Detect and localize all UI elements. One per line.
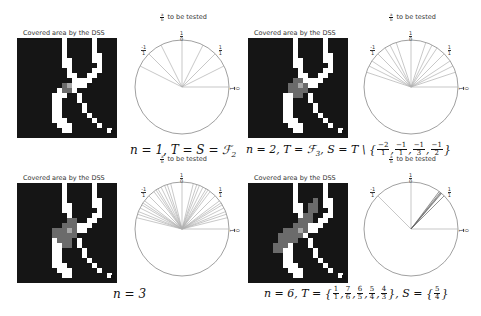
panel-caption: n = 6, T = {11,76,65,54,43}, S = {54} — [264, 286, 448, 301]
direction-ray — [140, 66, 182, 87]
direction-ray — [182, 54, 215, 87]
circle-title: ab to be tested — [159, 155, 207, 164]
tick-denominator: 0 — [409, 36, 412, 42]
caption-text: , — [408, 143, 412, 156]
goal-marker — [342, 130, 346, 134]
tick-label-top-left: -11 — [370, 45, 375, 56]
frac-denominator: 4 — [369, 294, 375, 301]
direction-ray — [411, 61, 450, 87]
caption-text: , S = T \ { — [320, 143, 376, 156]
direction-ray — [182, 45, 203, 87]
frac-denominator: b — [389, 18, 393, 22]
caption-subscript: 2 — [231, 150, 236, 159]
direction-circle — [133, 38, 231, 136]
grid-title: Covered area by the DSS — [23, 29, 105, 37]
tick-denominator: 1 — [371, 192, 374, 198]
title-fraction: ab — [160, 155, 164, 164]
direction-circle — [133, 180, 231, 278]
direction-ray — [161, 45, 182, 87]
caption-fraction: 54 — [434, 286, 440, 301]
tick-label-top-left: -11 — [141, 187, 146, 198]
title-fraction: ab — [389, 155, 393, 164]
grid-title: Covered area by the DSS — [254, 29, 336, 37]
direction-ray — [372, 61, 411, 87]
circle-title-text: to be tested — [165, 155, 206, 163]
direction-ray — [182, 66, 224, 87]
frac-denominator: b — [160, 160, 164, 164]
tick-denominator: 1 — [448, 50, 451, 56]
frac-denominator: b — [389, 160, 393, 164]
occupancy-grid — [17, 183, 117, 283]
goal-marker — [111, 275, 115, 279]
occupancy-grid — [17, 38, 117, 138]
circle-title: ab to be tested — [388, 13, 436, 22]
circle-title-text: to be tested — [394, 13, 435, 21]
tick-label-top-right: 11 — [448, 187, 451, 198]
tick-label-top-right: 11 — [448, 45, 451, 56]
tick-label-right: 01 — [458, 229, 469, 232]
caption-text: n = 2, T = ℱ — [246, 143, 316, 156]
caption-fraction: 11 — [333, 286, 339, 301]
panel-caption: n = 3 — [113, 287, 146, 301]
frac-denominator: 3 — [381, 294, 387, 301]
tick-denominator: 1 — [142, 192, 145, 198]
tick-denominator: 1 — [458, 229, 464, 232]
caption-text: n = 6, T = { — [264, 287, 332, 300]
caption-text: } — [444, 143, 451, 156]
tick-label-top-right: 11 — [219, 45, 222, 56]
tick-denominator: 1 — [458, 87, 464, 90]
direction-ray — [411, 48, 437, 87]
caption-text: , — [426, 143, 430, 156]
tick-denominator: 1 — [371, 50, 374, 56]
caption-fraction: 54 — [369, 286, 375, 301]
occupancy-grid — [248, 183, 348, 283]
tick-label-top: 10 — [409, 31, 412, 42]
tick-label-right: 01 — [229, 229, 240, 232]
direction-circle — [362, 180, 460, 278]
frac-denominator: 5 — [357, 294, 363, 301]
direction-circle — [362, 38, 460, 136]
direction-ray — [411, 54, 444, 87]
tick-label-top: 10 — [180, 173, 183, 184]
tick-denominator: 1 — [229, 87, 235, 90]
caption-text: , — [352, 287, 356, 300]
tick-denominator: 0 — [409, 178, 412, 184]
tick-denominator: 1 — [448, 192, 451, 198]
title-fraction: ab — [389, 13, 393, 22]
tick-denominator: 0 — [180, 36, 183, 42]
goal-marker — [342, 275, 346, 279]
circle-title: ab to be tested — [159, 13, 207, 22]
tick-label-top-left: -11 — [141, 45, 146, 56]
circle-title-text: to be tested — [394, 155, 435, 163]
tick-label-right: 01 — [458, 87, 469, 90]
caption-fraction: 76 — [345, 286, 351, 301]
caption-text: , — [364, 287, 368, 300]
caption-text: } — [441, 287, 448, 300]
grid-title: Covered area by the DSS — [23, 174, 105, 182]
tick-denominator: 1 — [142, 50, 145, 56]
frac-denominator: 1 — [333, 294, 339, 301]
tick-label-top: 10 — [409, 173, 412, 184]
frac-denominator: 6 — [345, 294, 351, 301]
grid-title: Covered area by the DSS — [254, 174, 336, 182]
tick-denominator: 1 — [219, 50, 222, 56]
tick-denominator: 1 — [219, 192, 222, 198]
caption-text: }, S = { — [388, 287, 433, 300]
caption-fraction: 43 — [381, 286, 387, 301]
title-fraction: ab — [160, 13, 164, 22]
tick-label-top-right: 11 — [219, 187, 222, 198]
caption-fraction: 65 — [357, 286, 363, 301]
circle-title: ab to be tested — [388, 155, 436, 164]
frac-denominator: b — [160, 18, 164, 22]
tick-denominator: 0 — [180, 178, 183, 184]
selected-direction-ray — [411, 191, 439, 229]
tick-label-right: 01 — [229, 87, 240, 90]
frac-denominator: 4 — [434, 294, 440, 301]
direction-ray — [378, 54, 411, 87]
goal-marker — [111, 130, 115, 134]
tick-denominator: 1 — [229, 229, 235, 232]
caption-text: , — [340, 287, 344, 300]
caption-text: , — [376, 287, 380, 300]
tick-label-top-left: -11 — [370, 187, 375, 198]
tick-label-top: 10 — [180, 31, 183, 42]
